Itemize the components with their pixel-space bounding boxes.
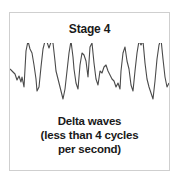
- caption-line-3: per second): [10, 142, 169, 156]
- eeg-stage-panel: Stage 4 Delta waves (less than 4 cycles …: [9, 12, 170, 171]
- wave-caption: Delta waves (less than 4 cycles per seco…: [10, 114, 169, 156]
- caption-line-1: Delta waves: [10, 114, 169, 128]
- caption-line-2: (less than 4 cycles: [10, 128, 169, 142]
- delta-waveform: [10, 43, 169, 115]
- stage-title: Stage 4: [10, 22, 169, 36]
